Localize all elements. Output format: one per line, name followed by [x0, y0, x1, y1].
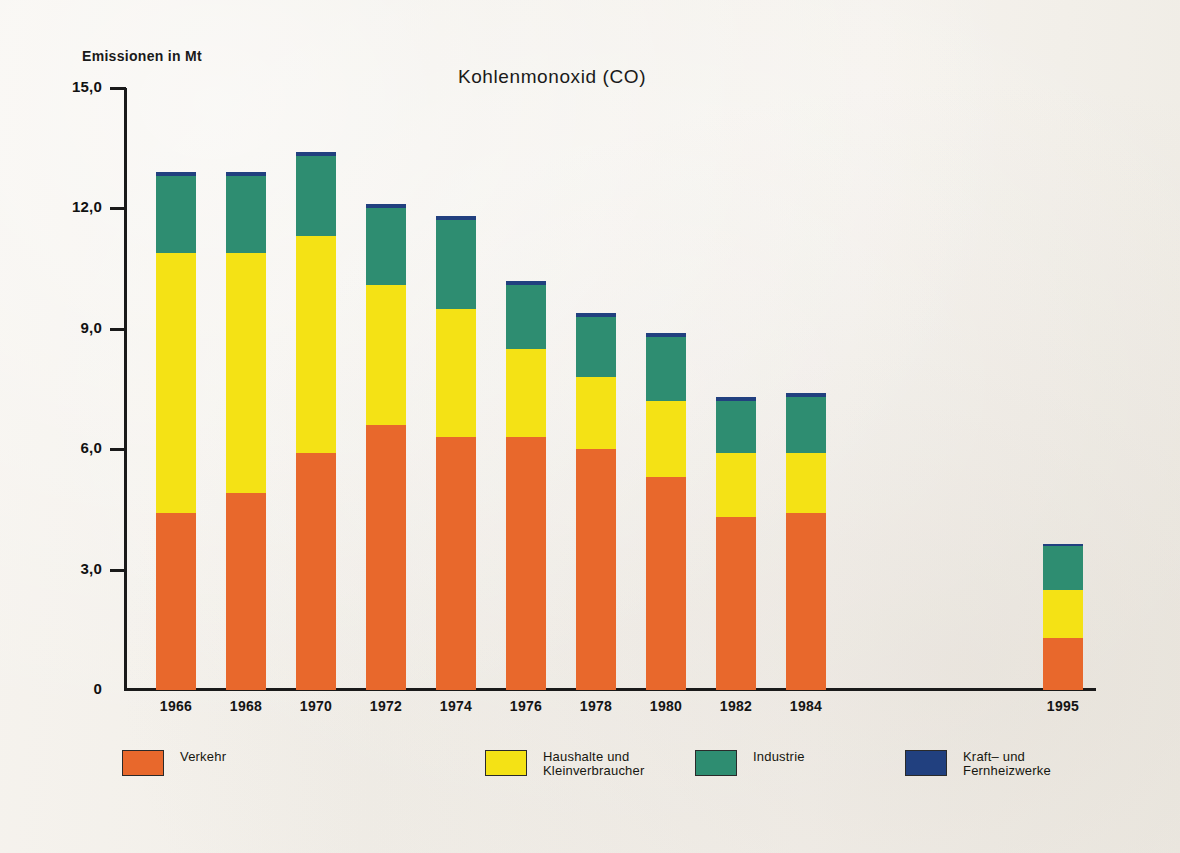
bar-segment: [226, 176, 266, 252]
bar-segment: [506, 349, 546, 437]
legend-swatch-icon: [485, 750, 527, 776]
bar-1972: [366, 88, 406, 690]
x-axis-tick-label-1980: 1980: [631, 698, 701, 714]
bar-segment: [436, 309, 476, 437]
bar-segment: [296, 152, 336, 156]
legend-label-line2: Kleinverbraucher: [543, 764, 644, 778]
bar-segment: [436, 220, 476, 308]
bar-segment: [646, 477, 686, 690]
bar-1968: [226, 88, 266, 690]
y-axis-tick-label: 0: [46, 680, 102, 697]
bar-1995: [1043, 88, 1083, 690]
y-axis-tick: [110, 328, 126, 331]
chart-title: Kohlenmonoxid (CO): [0, 66, 1180, 88]
legend-label-line1: Kraft– und Fernheizwerke: [963, 749, 1051, 778]
bar-segment: [296, 453, 336, 690]
x-axis-tick-label-1966: 1966: [141, 698, 211, 714]
bar-1966: [156, 88, 196, 690]
bar-1984: [786, 88, 826, 690]
bar-segment: [786, 393, 826, 397]
x-axis-tick-label-1978: 1978: [561, 698, 631, 714]
y-axis-tick: [110, 87, 126, 90]
y-axis-tick-label: 3,0: [44, 560, 102, 577]
legend-swatch-icon: [905, 750, 947, 776]
bar-segment: [366, 204, 406, 208]
bar-segment: [786, 513, 826, 690]
y-axis-tick: [110, 448, 126, 451]
bar-1980: [646, 88, 686, 690]
y-axis-tick-label: 15,0: [44, 78, 102, 95]
bar-segment: [366, 425, 406, 690]
bar-segment: [296, 236, 336, 453]
bar-segment: [1043, 638, 1083, 690]
x-axis-tick-label-1982: 1982: [701, 698, 771, 714]
legend-label: Haushalte undKleinverbraucher: [543, 750, 644, 778]
bar-segment: [576, 449, 616, 690]
y-axis-tick-label: 9,0: [44, 319, 102, 336]
bar-segment: [786, 397, 826, 453]
bar-segment: [576, 377, 616, 449]
x-axis-tick-label-1974: 1974: [421, 698, 491, 714]
bar-segment: [1043, 590, 1083, 638]
bar-segment: [296, 156, 336, 236]
bar-segment: [576, 313, 616, 317]
bar-segment: [156, 172, 196, 176]
x-axis-tick-label-1995: 1995: [1028, 698, 1098, 714]
legend-label: Kraft– und Fernheizwerke: [963, 750, 1051, 778]
stacked-bar-chart: Emissionen in Mt Kohlenmonoxid (CO) 15,0…: [0, 0, 1180, 853]
bar-segment: [1043, 546, 1083, 590]
bar-segment: [156, 253, 196, 514]
bar-segment: [786, 453, 826, 513]
bar-segment: [646, 337, 686, 401]
x-axis-tick-label-1970: 1970: [281, 698, 351, 714]
bar-segment: [366, 285, 406, 425]
bar-segment: [506, 437, 546, 690]
x-axis-tick-label-1984: 1984: [771, 698, 841, 714]
chart-legend: VerkehrHaushalte undKleinverbraucherIndu…: [0, 744, 1180, 792]
bar-1978: [576, 88, 616, 690]
legend-label-line1: Haushalte und: [543, 749, 629, 764]
bar-segment: [576, 317, 616, 377]
legend-swatch-icon: [695, 750, 737, 776]
y-axis-tick: [110, 207, 126, 210]
legend-swatch-icon: [122, 750, 164, 776]
bar-segment: [436, 437, 476, 690]
bar-segment: [716, 401, 756, 453]
bar-segment: [366, 208, 406, 284]
bar-segment: [716, 397, 756, 401]
legend-label: Verkehr: [180, 750, 226, 764]
y-axis-tick-label: 12,0: [44, 198, 102, 215]
bar-segment: [226, 172, 266, 176]
bar-segment: [506, 285, 546, 349]
bar-segment: [226, 493, 266, 690]
x-axis-tick-label-1976: 1976: [491, 698, 561, 714]
bar-segment: [1043, 544, 1083, 546]
bar-1976: [506, 88, 546, 690]
legend-label: Industrie: [753, 750, 805, 764]
bar-segment: [156, 176, 196, 252]
y-axis-label: Emissionen in Mt: [82, 48, 202, 64]
bar-segment: [716, 453, 756, 517]
legend-label-line1: Verkehr: [180, 749, 226, 764]
bar-segment: [436, 216, 476, 220]
y-axis-tick: [110, 569, 126, 572]
x-axis-tick-label-1972: 1972: [351, 698, 421, 714]
bar-1982: [716, 88, 756, 690]
bar-segment: [716, 517, 756, 690]
bar-segment: [646, 333, 686, 337]
x-axis-tick-label-1968: 1968: [211, 698, 281, 714]
bar-segment: [506, 281, 546, 285]
bar-segment: [646, 401, 686, 477]
bar-segment: [156, 513, 196, 690]
legend-label-line1: Industrie: [753, 749, 805, 764]
bar-1974: [436, 88, 476, 690]
bar-1970: [296, 88, 336, 690]
y-axis-tick-label: 6,0: [44, 439, 102, 456]
bar-segment: [226, 253, 266, 494]
chart-title-text: Kohlenmonoxid (CO): [458, 66, 646, 88]
y-axis-line: [124, 88, 127, 690]
